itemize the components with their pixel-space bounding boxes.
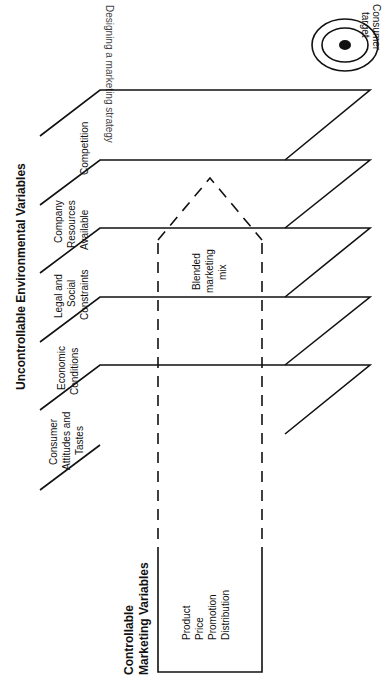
marketing-strategy-diagram: Designing a marketing strategy Consumer … <box>0 0 391 678</box>
blended-label-2: marketing <box>204 249 215 293</box>
plane-label-company-3: Available <box>79 209 90 250</box>
mix-item-product: Product <box>181 605 192 640</box>
blended-label-3: mix <box>217 264 228 280</box>
plane-label-consumer-2: Attitudes and <box>61 412 72 470</box>
plane-label-legal-3: Constraints <box>79 269 90 320</box>
plane-label-legal-1: Legal and <box>53 274 64 318</box>
mix-item-price: Price <box>194 617 205 640</box>
mix-item-distribution: Distribution <box>220 590 231 640</box>
blended-label-1: Blended <box>191 253 202 290</box>
figure-title: Designing a marketing strategy <box>104 5 115 143</box>
target-label-1: Consumer <box>371 4 382 51</box>
plane-label-consumer-3: Tastes <box>74 426 85 455</box>
plane-label-competition: Competition <box>79 122 90 175</box>
plane-label-consumer-1: Consumer <box>48 418 59 465</box>
blended-mix-arrow <box>158 178 262 558</box>
plane-label-legal-2: Social <box>66 280 77 307</box>
uncontrollable-heading: Uncontrollable Environmental Variables <box>14 163 28 390</box>
plane-label-economic-1: Economic <box>56 346 67 390</box>
controllable-heading-2: Marketing Variables <box>137 562 151 675</box>
plane-consumer-attitudes <box>40 365 370 434</box>
controllable-heading-1: Controllable <box>122 605 136 675</box>
mix-item-promotion: Promotion <box>207 594 218 640</box>
plane-label-company-1: Company <box>53 200 64 243</box>
target-label-2: target <box>360 12 371 38</box>
plane-label-company-2: Resources <box>66 200 77 248</box>
plane-label-economic-2: Conditions <box>69 348 80 395</box>
